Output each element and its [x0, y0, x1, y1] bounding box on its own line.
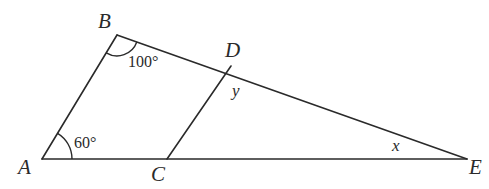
- point-label-e: E: [468, 155, 482, 179]
- angle-label-a: 60°: [74, 134, 96, 151]
- angle-label-x: x: [391, 136, 400, 155]
- triangle-diagram: B D A C E 100° 60° y x: [0, 0, 489, 189]
- point-label-d: D: [224, 38, 240, 62]
- segment-be: [117, 35, 467, 159]
- point-label-a: A: [16, 155, 31, 179]
- angle-label-y: y: [230, 81, 240, 100]
- segment-cd: [167, 66, 231, 159]
- point-label-c: C: [151, 162, 166, 186]
- angle-arc-a: [58, 133, 72, 159]
- point-label-b: B: [98, 9, 111, 33]
- angle-label-b: 100°: [128, 53, 158, 70]
